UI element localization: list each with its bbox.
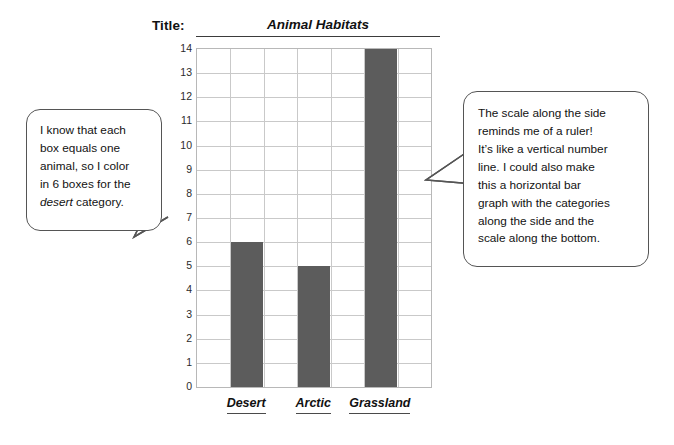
left-bubble-line-2: box equals one <box>40 140 150 158</box>
bar-desert <box>231 242 263 387</box>
right-bubble-line-4: line. I could also make <box>478 159 638 177</box>
right-speech-bubble: The scale along the side reminds me of a… <box>463 91 649 267</box>
right-bubble-line-5: this a horizontal bar <box>478 177 638 195</box>
title-row: Title: Animal Habitats <box>152 16 452 42</box>
right-bubble-line-8: scale along the bottom. <box>478 230 638 248</box>
bar-series <box>197 49 431 387</box>
left-bubble-line-4: in 6 boxes for the <box>40 176 150 194</box>
title-label: Title: <box>152 18 185 33</box>
left-bubble-line-3: animal, so I color <box>40 158 150 176</box>
y-tick-label: 10 <box>160 139 192 150</box>
y-tick-label: 0 <box>160 381 192 392</box>
right-bubble-line-1: The scale along the side <box>478 105 638 123</box>
y-tick-label: 14 <box>160 43 192 54</box>
y-tick-label: 2 <box>160 332 192 343</box>
y-tick-label: 8 <box>160 188 192 199</box>
left-speech-bubble: I know that each box equals one animal, … <box>26 109 162 231</box>
left-bubble-line-1: I know that each <box>40 122 150 140</box>
y-tick-label: 13 <box>160 67 192 78</box>
y-tick-label: 12 <box>160 91 192 102</box>
bar-arctic <box>298 266 330 387</box>
chart-title-value: Animal Habitats <box>196 17 440 32</box>
y-tick-label: 4 <box>160 284 192 295</box>
bar-chart-plot-area <box>196 48 432 388</box>
y-tick-label: 3 <box>160 308 192 319</box>
y-tick-label: 11 <box>160 115 192 126</box>
left-bubble-line-5: desert category. <box>40 194 150 212</box>
right-bubble-line-7: along the side and the <box>478 213 638 231</box>
y-tick-label: 9 <box>160 163 192 174</box>
y-tick-label: 5 <box>160 260 192 271</box>
left-bubble-line-5-rest: category. <box>73 195 124 209</box>
x-label-grassland: Grassland <box>349 396 410 414</box>
left-bubble-emphasis: desert <box>40 195 73 209</box>
x-label-arctic: Arctic <box>296 396 331 414</box>
right-bubble-line-3: It’s like a vertical number <box>478 141 638 159</box>
x-axis: DesertArcticGrassland <box>196 396 432 424</box>
x-label-desert: Desert <box>227 396 266 414</box>
right-bubble-line-6: graph with the categories <box>478 195 638 213</box>
right-bubble-line-2: reminds me of a ruler! <box>478 123 638 141</box>
bar-grassland <box>365 49 397 387</box>
y-tick-label: 1 <box>160 357 192 368</box>
